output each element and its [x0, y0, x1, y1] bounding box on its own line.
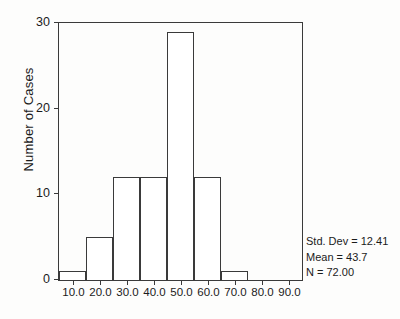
- y-axis-tick: 20: [54, 108, 59, 109]
- y-axis-tick: 30: [54, 22, 59, 23]
- x-axis-tick-label: 20.0: [89, 286, 111, 298]
- x-axis-tick-label: 80.0: [251, 286, 273, 298]
- x-axis-tick-label: 50.0: [170, 286, 192, 298]
- x-axis-tick: 50.0: [181, 280, 182, 285]
- y-axis-tick-label: 10: [36, 186, 50, 200]
- x-axis-tick-label: 10.0: [62, 286, 84, 298]
- y-axis-title: Number of Cases: [21, 40, 36, 200]
- x-axis-tick-label: 30.0: [116, 286, 138, 298]
- x-axis-tick: 40.0: [154, 280, 155, 285]
- x-axis-tick: 70.0: [235, 280, 236, 285]
- x-axis-tick-label: 90.0: [278, 286, 300, 298]
- x-axis-tick-label: 40.0: [143, 286, 165, 298]
- stat-std-dev: Std. Dev = 12.41: [306, 234, 388, 250]
- y-axis-tick-label: 30: [36, 15, 50, 29]
- x-axis-tick: 20.0: [100, 280, 101, 285]
- y-axis-tick-label: 20: [36, 101, 50, 115]
- histogram-bar: [113, 177, 140, 280]
- x-axis-tick-label: 60.0: [197, 286, 219, 298]
- histogram-bar: [59, 271, 86, 280]
- plot-area: 302010010.020.030.040.050.060.070.080.09…: [58, 22, 303, 281]
- stat-mean: Mean = 43.7: [306, 250, 388, 266]
- x-axis-tick: 10.0: [73, 280, 74, 285]
- x-axis-tick: 60.0: [208, 280, 209, 285]
- y-axis-tick: 10: [54, 193, 59, 194]
- histogram-bar: [140, 177, 167, 280]
- stat-n: N = 72.00: [306, 265, 388, 281]
- x-axis-tick-label: 70.0: [224, 286, 246, 298]
- plot-inner: 302010010.020.030.040.050.060.070.080.09…: [59, 23, 302, 280]
- y-axis-tick: 0: [54, 279, 59, 280]
- x-axis-tick: 80.0: [262, 280, 263, 285]
- histogram-bar: [221, 271, 248, 280]
- histogram-bar: [86, 237, 113, 280]
- x-axis-tick: 90.0: [289, 280, 290, 285]
- histogram-bar: [194, 177, 221, 280]
- y-axis-tick-label: 0: [43, 272, 50, 286]
- histogram-bar: [167, 32, 194, 280]
- x-axis-tick: 30.0: [127, 280, 128, 285]
- statistics-box: Std. Dev = 12.41 Mean = 43.7 N = 72.00: [306, 234, 388, 281]
- histogram-figure: Number of Cases 302010010.020.030.040.05…: [0, 0, 400, 319]
